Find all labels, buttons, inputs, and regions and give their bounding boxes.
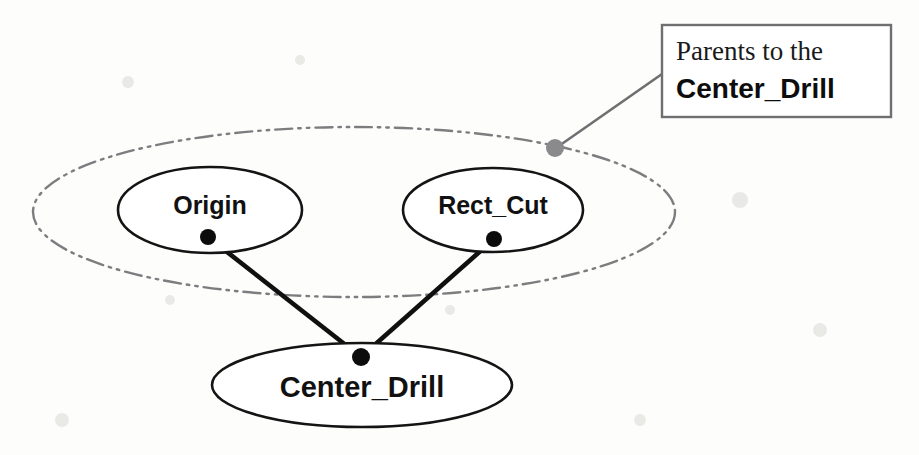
- callout-anchor-dot: [546, 139, 564, 157]
- node-rect-cut-label: Rect_Cut: [438, 191, 548, 219]
- node-origin-label: Origin: [173, 191, 247, 219]
- origin-connector-dot: [200, 229, 216, 245]
- diagram-canvas: Origin Rect_Cut Center_Drill Parents to …: [0, 0, 919, 455]
- edge-rect-cut-to-center-drill: [361, 239, 494, 357]
- callout-line-2: Center_Drill: [676, 73, 835, 104]
- node-center-drill-label: Center_Drill: [280, 371, 444, 403]
- callout-line-1: Parents to the: [676, 36, 823, 66]
- callout-box: Parents to the Center_Drill: [662, 25, 891, 117]
- callout-leader-line: [556, 74, 662, 148]
- center-drill-junction-dot: [352, 348, 370, 366]
- rect-cut-connector-dot: [486, 231, 502, 247]
- diagram-svg: Origin Rect_Cut Center_Drill Parents to …: [0, 0, 919, 455]
